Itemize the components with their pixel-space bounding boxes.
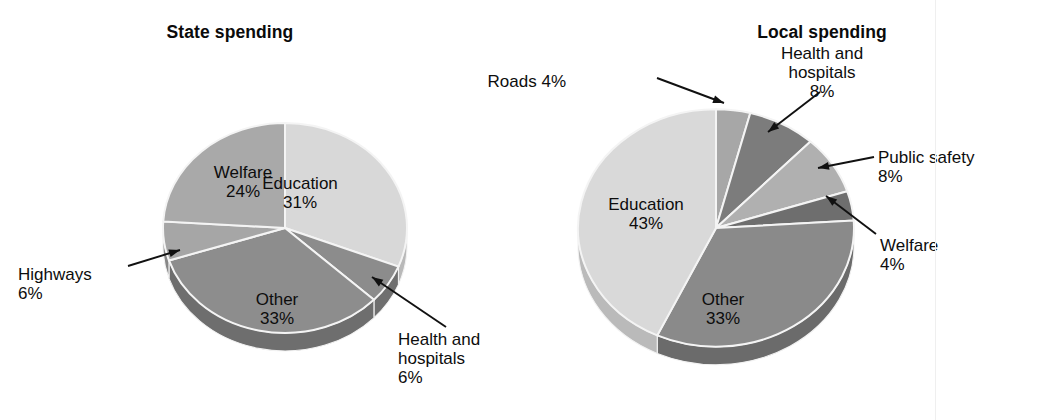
pie-label-state-spending-other: Other33%: [256, 290, 299, 328]
state-chart-title: State spending: [0, 22, 460, 43]
pie-label-value: 6%: [398, 368, 423, 387]
pie-label-value: 31%: [283, 193, 317, 212]
scan-artifact-line: [935, 0, 936, 420]
pie-label-state-spending-education: Education31%: [262, 174, 338, 212]
pie-label-name: Other: [702, 290, 745, 309]
pie-label-name: Education: [262, 174, 338, 193]
pie-label-name: Welfare: [214, 163, 272, 182]
pie-label-name: Welfare: [880, 236, 938, 255]
pie-label-name: Education: [608, 195, 684, 214]
pie-label-value: 8%: [810, 82, 835, 101]
pie-label-value: 6%: [18, 284, 43, 303]
pie-label-local-spending-public-safety: Public safety8%: [878, 148, 974, 186]
pie-label-value: 4%: [880, 255, 905, 274]
pie-label-value: 33%: [706, 309, 740, 328]
pie-label-name: Health and hospitals: [398, 330, 480, 368]
pie-label-state-spending-health-and-hospitals: Health and hospitals6%: [398, 330, 480, 387]
pie-label-local-spending-health-and-hospitals: Health and hospitals8%: [781, 44, 863, 101]
pie-label-state-spending-welfare: Welfare24%: [214, 163, 272, 201]
pie-label-name: Highways: [18, 265, 92, 284]
pie-label-local-spending-welfare: Welfare4%: [880, 236, 938, 274]
pie-label-local-spending-roads: Roads 4%: [488, 72, 566, 91]
pie-label-value: 8%: [878, 167, 903, 186]
pie-label-name: Roads 4%: [488, 72, 566, 91]
pie-label-name: Public safety: [878, 148, 974, 167]
spending-pie-charts-figure: State spending Local spending Education3…: [0, 0, 1064, 420]
pie-label-value: 24%: [226, 182, 260, 201]
pie-label-value: 33%: [260, 309, 294, 328]
pie-label-state-spending-highways: Highways6%: [18, 265, 92, 303]
pie-label-local-spending-other: Other33%: [702, 290, 745, 328]
pie-label-local-spending-education: Education43%: [608, 195, 684, 233]
pie-label-name: Health and hospitals: [781, 44, 863, 82]
pie-label-name: Other: [256, 290, 299, 309]
local-chart-title: Local spending: [592, 22, 1052, 43]
pie-label-value: 43%: [629, 214, 663, 233]
